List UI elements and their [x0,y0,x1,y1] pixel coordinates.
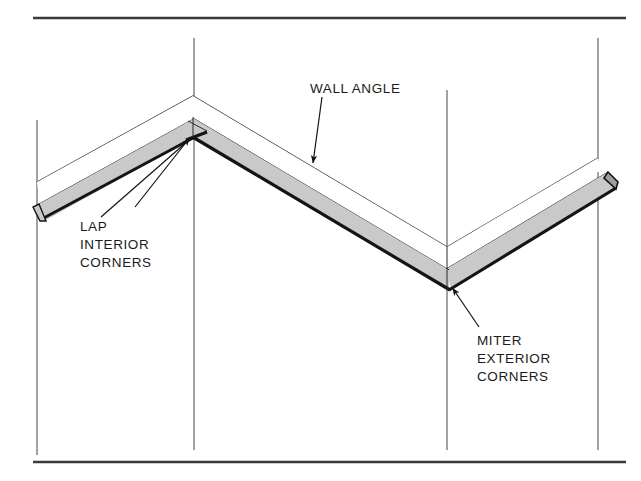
label-lap-interior-corners-line2: INTERIOR [80,237,149,252]
label-wall-angle: WALL ANGLE [310,81,401,96]
wall-angle-diagram: WALL ANGLE LAP INTERIOR CORNERS MITER EX… [0,0,641,481]
label-miter-exterior-corners-line1: MITER [477,333,522,348]
label-miter-exterior-corners-line3: CORNERS [477,369,549,384]
wall-angle-figure: WALL ANGLE LAP INTERIOR CORNERS MITER EX… [0,0,641,481]
label-lap-interior-corners-line3: CORNERS [80,255,152,270]
label-miter-exterior-corners-line2: EXTERIOR [477,351,551,366]
label-lap-interior-corners-line1: LAP [80,219,107,234]
